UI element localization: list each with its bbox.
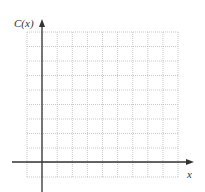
coordinate-grid: C(x) x [0,0,205,192]
grid-lines [27,32,178,177]
x-axis-arrow-icon [186,159,194,165]
y-axis-label: C(x) [14,17,34,30]
y-axis-arrow-icon [39,19,45,27]
x-axis-label: x [186,168,192,180]
